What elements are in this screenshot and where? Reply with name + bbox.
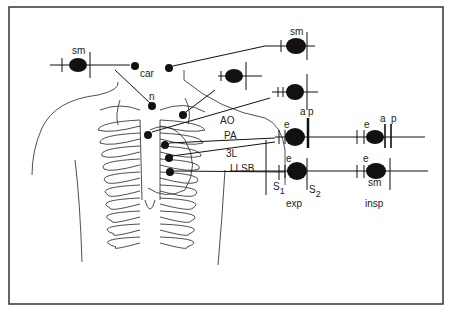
site-car-right (165, 64, 173, 72)
site-3L-lower (165, 154, 173, 162)
rib-left (100, 133, 140, 144)
trace-llsb: e S1 S2 exp e sm insp (230, 140, 428, 209)
label-exp: exp (286, 198, 303, 209)
site-AO (179, 111, 187, 119)
label-e-pa-insp: e (364, 119, 370, 130)
site-LLSB (166, 168, 174, 176)
rib-left (106, 198, 140, 209)
rib-left (107, 211, 140, 222)
label-insp: insp (365, 198, 384, 209)
rib-left (102, 146, 140, 157)
label-p-pa-exp: p (308, 106, 314, 117)
label-sm-right: sm (290, 26, 303, 37)
rib-left (105, 185, 140, 196)
rib-right (160, 211, 195, 222)
rib-left (107, 224, 140, 235)
label-e-llsb-exp: e (286, 153, 292, 164)
rib-right (160, 120, 205, 131)
label-S1: S1 (273, 181, 285, 196)
rib-left (104, 172, 140, 183)
label-PA: PA (224, 130, 237, 141)
label-e-llsb-insp: e (363, 153, 369, 164)
site-n (148, 102, 156, 110)
auscultation-diagram: car n AO PA 3L LLSB sm sm (0, 0, 449, 319)
rib-right (160, 198, 196, 209)
trace-ao (272, 74, 318, 110)
label-a-pa-insp: a (380, 113, 386, 124)
trace-right-carotid: sm (265, 26, 315, 60)
site-car-left (131, 62, 139, 70)
label-p-pa-insp: p (391, 113, 397, 124)
label-sm-left: sm (72, 45, 85, 56)
label-n: n (149, 91, 155, 102)
rib-right (160, 172, 198, 183)
label-S2: S2 (309, 184, 321, 199)
label-e-pa-exp: e (284, 119, 290, 130)
label-sm-llsb: sm (368, 177, 381, 188)
label-a-pa-exp: a (300, 106, 306, 117)
site-3L (161, 141, 169, 149)
rib-left (98, 120, 140, 131)
label-car: car (140, 68, 155, 79)
rib-right (160, 224, 194, 235)
rib-cage (98, 98, 205, 248)
site-PA (144, 131, 152, 139)
label-AO: AO (220, 115, 235, 126)
rib-right (160, 237, 194, 248)
label-LLSB: LLSB (230, 163, 255, 174)
label-3L: 3L (226, 148, 238, 159)
rib-left (108, 237, 140, 248)
rib-right (160, 159, 199, 170)
trace-middle (218, 62, 262, 90)
trace-pa-exp: e a p e a p (275, 106, 425, 148)
rib-left (103, 159, 140, 170)
